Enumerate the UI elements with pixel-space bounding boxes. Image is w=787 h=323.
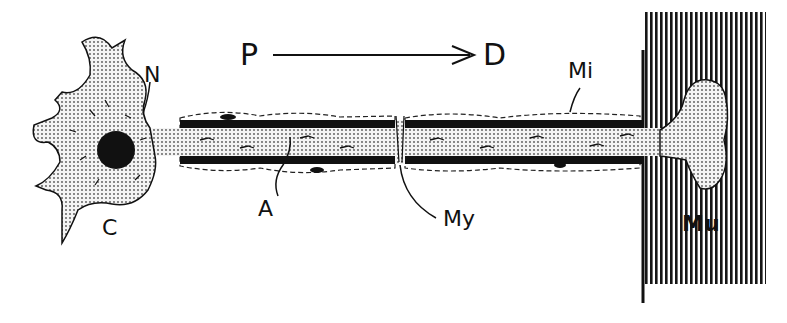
leader-mi [570, 88, 580, 112]
cell-body [33, 37, 155, 243]
label-axon: A [258, 198, 273, 220]
label-proximal: P [240, 40, 258, 70]
label-nucleus: N [144, 64, 160, 86]
label-mitochondria: Mi [568, 60, 593, 82]
label-distal: D [483, 40, 506, 70]
label-cell-body: C [102, 217, 117, 239]
neuron-diagram: P D N C A My Mi Mu [0, 0, 787, 323]
direction-arrow [273, 46, 474, 64]
diagram-drawing [0, 0, 787, 323]
leader-my [400, 165, 436, 218]
label-myelin: My [443, 208, 475, 230]
nucleus [97, 131, 135, 169]
axon [150, 112, 670, 173]
label-muscle: Mu [682, 213, 720, 235]
